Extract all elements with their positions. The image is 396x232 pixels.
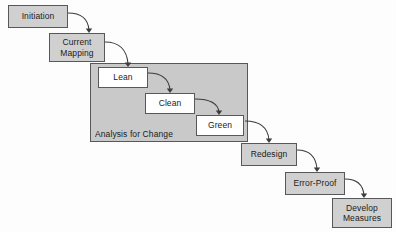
arrow-error-proof-to-develop-measures: [345, 179, 367, 198]
process-node-develop-measures[interactable]: DevelopMeasures: [332, 198, 392, 228]
process-node-redesign[interactable]: Redesign: [241, 143, 297, 166]
diagram-canvas: Analysis for Change InitiationCurrentMap…: [0, 0, 396, 232]
process-node-green[interactable]: Green: [196, 115, 244, 136]
process-node-label: Initiation: [22, 11, 55, 22]
process-node-label: Clean: [159, 98, 182, 109]
process-node-error-proof[interactable]: Error-Proof: [285, 172, 345, 195]
process-node-label: Lean: [113, 72, 132, 83]
process-node-clean[interactable]: Clean: [145, 93, 195, 114]
process-node-label: DevelopMeasures: [343, 203, 381, 224]
process-node-initiation[interactable]: Initiation: [8, 5, 68, 28]
process-node-label: CurrentMapping: [60, 37, 93, 58]
process-node-label: Redesign: [251, 149, 288, 160]
process-node-label: Green: [208, 120, 232, 131]
process-node-lean[interactable]: Lean: [98, 67, 148, 88]
arrow-green-to-redesign: [245, 121, 272, 143]
process-node-label: Error-Proof: [293, 178, 336, 189]
analysis-for-change-label: Analysis for Change: [95, 129, 173, 139]
arrow-initiation-to-current-mapping: [68, 13, 92, 33]
arrow-redesign-to-error-proof: [297, 150, 320, 172]
process-node-current-mapping[interactable]: CurrentMapping: [49, 33, 105, 62]
